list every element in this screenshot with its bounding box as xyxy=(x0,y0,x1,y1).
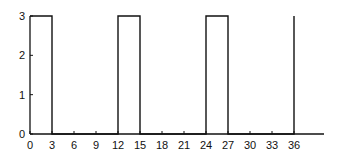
x-tick-label: 0 xyxy=(27,139,33,151)
x-tick-label: 21 xyxy=(178,139,190,151)
axes xyxy=(30,16,324,134)
x-tick-label: 27 xyxy=(222,139,234,151)
x-tick-label: 33 xyxy=(266,139,278,151)
x-tick-label: 30 xyxy=(244,139,256,151)
pulse-chart: 0123 0369121518212427303336 xyxy=(0,0,342,157)
x-tick-label: 18 xyxy=(156,139,168,151)
pulse-line xyxy=(30,16,294,134)
x-tick-label: 6 xyxy=(71,139,77,151)
x-tick-label: 3 xyxy=(49,139,55,151)
x-tick-label: 9 xyxy=(93,139,99,151)
y-tick-label: 1 xyxy=(19,89,25,101)
y-axis-ticks: 0123 xyxy=(19,10,33,140)
x-tick-label: 12 xyxy=(112,139,124,151)
y-tick-label: 2 xyxy=(19,49,25,61)
y-tick-label: 0 xyxy=(19,128,25,140)
x-tick-label: 15 xyxy=(134,139,146,151)
data-series xyxy=(30,16,294,134)
x-tick-label: 24 xyxy=(200,139,212,151)
x-tick-label: 36 xyxy=(288,139,300,151)
y-tick-label: 3 xyxy=(19,10,25,22)
